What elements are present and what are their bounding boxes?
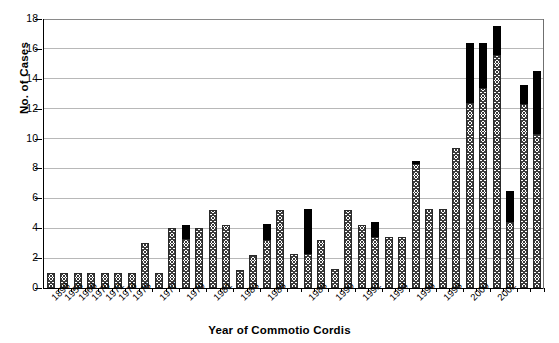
- bar: [358, 225, 366, 288]
- bar-segment-hatched: [290, 254, 298, 288]
- bar-segment-solid: [493, 26, 501, 54]
- y-axis-label: 16: [10, 43, 38, 53]
- bar-segment-solid: [506, 191, 514, 222]
- bar-segment-hatched: [520, 104, 528, 288]
- bar-segment-solid: [371, 222, 379, 237]
- bar-segment-hatched: [276, 210, 284, 288]
- x-axis-tick: [544, 288, 545, 292]
- bar: [452, 148, 460, 288]
- bar: [304, 209, 312, 288]
- x-axis-tick: [530, 288, 531, 292]
- bar-segment-hatched: [412, 164, 420, 288]
- bar: [371, 222, 379, 288]
- bar: [155, 273, 163, 288]
- bar-segment-hatched: [182, 239, 190, 288]
- bar-segment-hatched: [385, 237, 393, 288]
- bar-segment-hatched: [222, 225, 230, 288]
- bar: [493, 26, 501, 288]
- bar: [533, 71, 541, 288]
- bar: [506, 191, 514, 288]
- y-axis-label: 2: [10, 252, 38, 262]
- y-axis-label: 8: [10, 162, 38, 172]
- plot-area: 024681012141618 189819581966197019711974…: [43, 19, 544, 289]
- bar-segment-hatched: [263, 240, 271, 288]
- x-axis-tick: [517, 288, 518, 292]
- bar-segment-hatched: [344, 210, 352, 288]
- bar: [209, 210, 217, 288]
- x-axis-tick: [152, 288, 153, 292]
- bar: [236, 270, 244, 288]
- commotio-cordis-bar-chart: No. of Cases 024681012141618 18981958196…: [0, 0, 559, 343]
- bar: [425, 209, 433, 288]
- x-axis-tick: [233, 288, 234, 292]
- bar: [412, 161, 420, 288]
- bar-segment-hatched: [331, 269, 339, 288]
- bar-segment-hatched: [452, 148, 460, 288]
- bar-segment-hatched: [506, 222, 514, 288]
- bar: [385, 237, 393, 288]
- x-axis-tick: [206, 288, 207, 292]
- bar-segment-solid: [304, 209, 312, 254]
- bar-segment-hatched: [236, 270, 244, 288]
- bar-segment-hatched: [479, 88, 487, 288]
- x-axis-tick: [409, 288, 410, 292]
- bar-segment-solid: [263, 224, 271, 240]
- bar-segment-hatched: [155, 273, 163, 288]
- y-axis-label: 18: [10, 13, 38, 23]
- bar-segment-hatched: [304, 254, 312, 288]
- bar: [331, 269, 339, 288]
- bar: [182, 225, 190, 288]
- x-axis-tick: [287, 288, 288, 292]
- x-axis-tick: [301, 288, 302, 292]
- bar-segment-hatched: [533, 134, 541, 288]
- y-axis-label: 10: [10, 133, 38, 143]
- x-axis-tick: [490, 288, 491, 292]
- x-axis-tick: [436, 288, 437, 292]
- y-axis-label: 6: [10, 192, 38, 202]
- bar-segment-solid: [182, 225, 190, 238]
- bar-segment-solid: [466, 43, 474, 103]
- bar-segment-hatched: [47, 273, 55, 288]
- plot-right-border: [543, 19, 544, 289]
- x-axis-tick: [382, 288, 383, 292]
- bar-segment-solid: [520, 85, 528, 104]
- bar-segment-solid: [479, 43, 487, 88]
- y-axis-label: 14: [10, 73, 38, 83]
- bar-segment-hatched: [439, 209, 447, 288]
- bar-segment-hatched: [466, 103, 474, 288]
- x-axis-tick: [328, 288, 329, 292]
- x-axis-title: Year of Commotio Cordis: [0, 324, 559, 336]
- bar: [439, 209, 447, 288]
- bar: [276, 210, 284, 288]
- bar: [479, 43, 487, 288]
- bar-segment-hatched: [425, 209, 433, 288]
- bar-segment-hatched: [493, 55, 501, 288]
- x-axis-tick: [463, 288, 464, 292]
- bars-group: [44, 19, 544, 288]
- bar-segment-hatched: [209, 210, 217, 288]
- bar-segment-hatched: [358, 225, 366, 288]
- y-axis-label: 12: [10, 103, 38, 113]
- y-axis-label: 0: [10, 282, 38, 292]
- bar: [290, 254, 298, 288]
- bar-segment-solid: [533, 71, 541, 134]
- bar: [466, 43, 474, 288]
- y-axis-label: 4: [10, 222, 38, 232]
- bar: [520, 85, 528, 288]
- bar: [222, 225, 230, 288]
- bar: [47, 273, 55, 288]
- x-axis-tick: [260, 288, 261, 292]
- x-axis-tick: [355, 288, 356, 292]
- x-axis-tick: [179, 288, 180, 292]
- bar: [263, 224, 271, 288]
- bar: [344, 210, 352, 288]
